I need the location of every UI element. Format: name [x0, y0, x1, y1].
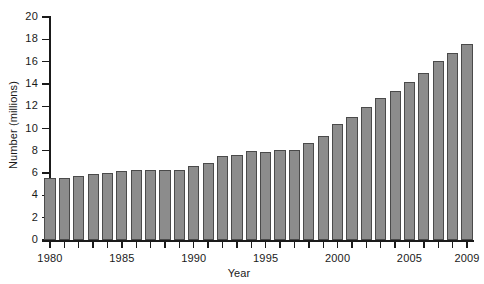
bar — [203, 163, 214, 240]
x-tick — [409, 241, 410, 248]
y-tick-label: 14 — [0, 78, 38, 89]
x-tick — [121, 241, 122, 248]
x-tick — [49, 241, 50, 248]
bar — [73, 176, 84, 240]
y-tick-label: 20 — [0, 11, 38, 22]
bar — [274, 150, 285, 240]
x-tick-label: 2000 — [316, 252, 360, 264]
bar — [217, 156, 228, 240]
x-tick — [351, 241, 352, 248]
x-tick — [78, 241, 79, 248]
bar — [44, 178, 55, 240]
x-tick — [294, 241, 295, 248]
y-tick-label: 18 — [0, 33, 38, 44]
y-tick — [42, 61, 49, 62]
x-tick — [452, 241, 453, 248]
y-tick-label: 2 — [0, 212, 38, 223]
x-tick — [265, 241, 266, 248]
bar — [404, 82, 415, 240]
bar — [318, 136, 329, 240]
bar — [231, 155, 242, 240]
x-tick-label: 1995 — [244, 252, 288, 264]
bar — [116, 171, 127, 240]
bar — [188, 166, 199, 240]
y-tick — [42, 106, 49, 107]
y-tick — [42, 39, 49, 40]
x-tick — [251, 241, 252, 248]
bar — [174, 170, 185, 240]
x-tick — [423, 241, 424, 248]
x-tick — [92, 241, 93, 248]
bar — [88, 174, 99, 240]
x-tick — [323, 241, 324, 248]
x-tick — [164, 241, 165, 248]
x-tick — [193, 241, 194, 248]
bar — [346, 117, 357, 240]
x-tick — [279, 241, 280, 248]
y-tick — [42, 172, 49, 173]
x-tick-label: 1980 — [28, 252, 72, 264]
bar — [433, 61, 444, 241]
x-tick-label: 1990 — [172, 252, 216, 264]
bar — [461, 44, 472, 240]
y-tick-label: 16 — [0, 56, 38, 67]
bar — [260, 152, 271, 240]
y-tick — [42, 128, 49, 129]
y-tick — [42, 83, 49, 84]
y-tick-label: 8 — [0, 145, 38, 156]
bar — [447, 53, 458, 240]
plot-area — [50, 17, 474, 240]
x-tick — [236, 241, 237, 248]
bar — [332, 124, 343, 240]
y-tick-label: 4 — [0, 189, 38, 200]
x-tick — [107, 241, 108, 248]
y-tick-label: 12 — [0, 100, 38, 111]
bar — [390, 91, 401, 240]
x-tick-label: 2005 — [388, 252, 432, 264]
x-tick — [466, 241, 467, 248]
bar — [303, 143, 314, 240]
bar — [131, 170, 142, 240]
x-tick — [438, 241, 439, 248]
x-tick — [366, 241, 367, 248]
x-tick — [179, 241, 180, 248]
y-tick — [42, 16, 49, 17]
bar — [246, 151, 257, 240]
bar — [102, 173, 113, 240]
bar — [289, 150, 300, 240]
bar — [361, 107, 372, 240]
x-tick — [380, 241, 381, 248]
x-tick — [394, 241, 395, 248]
x-tick — [136, 241, 137, 248]
y-tick-label: 0 — [0, 234, 38, 245]
y-tick-label: 6 — [0, 167, 38, 178]
bar — [418, 73, 429, 240]
x-tick — [337, 241, 338, 248]
y-tick-label: 10 — [0, 123, 38, 134]
x-tick-label: 1985 — [100, 252, 144, 264]
bar — [59, 178, 70, 240]
x-tick-label: 2009 — [445, 252, 484, 264]
x-axis-title: Year — [0, 267, 478, 279]
x-tick — [150, 241, 151, 248]
x-tick — [308, 241, 309, 248]
x-tick — [64, 241, 65, 248]
bar — [375, 98, 386, 240]
x-tick — [222, 241, 223, 248]
bar — [145, 170, 156, 240]
y-tick — [42, 150, 49, 151]
bar — [159, 170, 170, 240]
x-tick — [207, 241, 208, 248]
